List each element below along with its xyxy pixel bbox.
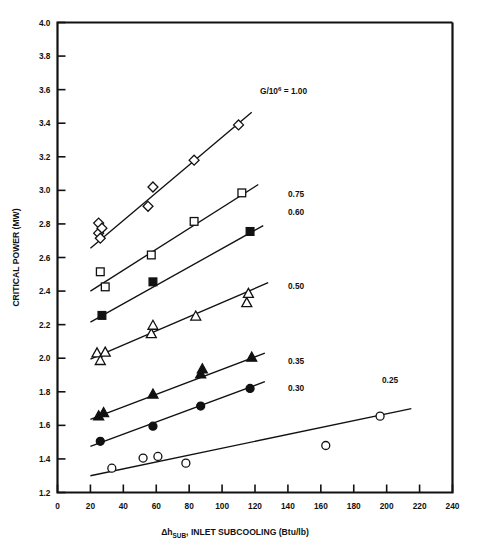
data-point <box>376 412 384 420</box>
x-tick-label: 140 <box>281 501 295 511</box>
fit-line-0.30 <box>90 382 264 447</box>
data-point <box>148 182 158 192</box>
fit-line-0.35 <box>90 353 264 419</box>
x-tick-label: 60 <box>152 501 162 511</box>
mass-flux-annotation: G/106 = 1.00 <box>260 85 307 96</box>
data-point <box>234 120 244 130</box>
data-point <box>197 364 207 373</box>
y-tick-label: 3.6 <box>39 85 51 95</box>
y-axis-title: CRITICAL POWER (MW) <box>11 208 21 306</box>
series-markers-0.35 <box>94 352 257 420</box>
y-tick-label: 1.4 <box>39 454 51 464</box>
data-point <box>99 408 109 417</box>
x-tick-labels: 020406080100120140160180200220240 <box>55 501 460 511</box>
data-point <box>148 320 158 329</box>
critical-power-scatter-chart: 1.21.41.61.82.02.22.42.62.83.03.23.43.63… <box>0 0 484 551</box>
data-point <box>149 278 157 286</box>
series-label-0.50: 0.50 <box>288 281 305 291</box>
series-labels: 0.750.600.500.350.300.25 <box>288 189 399 393</box>
data-point <box>147 251 155 259</box>
x-axis-title: ΔhSUB, INLET SUBCOOLING (Btu/lb) <box>161 527 309 539</box>
chart-figure: 1.21.41.61.82.02.22.42.62.83.03.23.43.63… <box>0 0 484 551</box>
y-tick-label: 3.4 <box>39 118 51 128</box>
series-label-0.75: 0.75 <box>288 189 305 199</box>
y-tick-label: 3.2 <box>39 152 51 162</box>
series-label-0.30: 0.30 <box>288 383 305 393</box>
fit-line-0.25 <box>90 409 411 476</box>
series-label-0.35: 0.35 <box>288 356 305 366</box>
data-point <box>96 268 104 276</box>
axes <box>58 23 453 493</box>
data-point <box>98 312 106 320</box>
y-tick-label: 2.0 <box>39 353 51 363</box>
data-point <box>146 329 156 338</box>
chart-annotations: G/106 = 1.00 <box>260 85 307 96</box>
data-point <box>246 228 254 236</box>
data-point <box>190 218 198 226</box>
y-tick-label: 2.2 <box>39 320 51 330</box>
data-point <box>238 189 246 197</box>
data-point <box>242 298 252 307</box>
fit-line-0.50 <box>90 283 268 359</box>
data-point <box>148 389 158 398</box>
x-tick-label: 240 <box>446 501 460 511</box>
x-tick-label: 40 <box>119 501 129 511</box>
data-point <box>101 283 109 291</box>
data-point <box>149 422 157 430</box>
x-tick-label: 160 <box>314 501 328 511</box>
data-point <box>96 437 104 445</box>
series-label-0.25: 0.25 <box>382 375 399 385</box>
x-tick-label: 100 <box>215 501 229 511</box>
x-tick-label: 20 <box>86 501 96 511</box>
x-tick-label: 120 <box>248 501 262 511</box>
y-tick-label: 1.6 <box>39 420 51 430</box>
data-point <box>246 384 254 392</box>
y-tick-label: 2.8 <box>39 219 51 229</box>
y-tick-label: 2.6 <box>39 253 51 263</box>
y-tick-labels: 1.21.41.61.82.02.22.42.62.83.03.23.43.63… <box>39 18 51 498</box>
x-tick-label: 80 <box>185 501 195 511</box>
x-tick-label: 220 <box>413 501 427 511</box>
data-point <box>197 402 205 410</box>
x-tick-label: 0 <box>55 501 60 511</box>
data-point <box>139 454 147 462</box>
y-tick-label: 1.2 <box>39 488 51 498</box>
y-tick-label: 2.4 <box>39 286 51 296</box>
y-tick-label: 3.8 <box>39 51 51 61</box>
tick-marks <box>58 23 453 493</box>
y-tick-label: 1.8 <box>39 387 51 397</box>
data-point <box>182 459 190 467</box>
fit-line-1.00 <box>90 112 251 248</box>
y-tick-label: 3.0 <box>39 185 51 195</box>
y-tick-label: 4.0 <box>39 18 51 28</box>
data-point <box>108 464 116 472</box>
x-tick-label: 180 <box>347 501 361 511</box>
data-point <box>154 452 162 460</box>
x-tick-label: 200 <box>380 501 394 511</box>
series-label-0.60: 0.60 <box>288 207 305 217</box>
axis-titles: CRITICAL POWER (MW)ΔhSUB, INLET SUBCOOLI… <box>11 208 309 538</box>
data-point <box>322 442 330 450</box>
